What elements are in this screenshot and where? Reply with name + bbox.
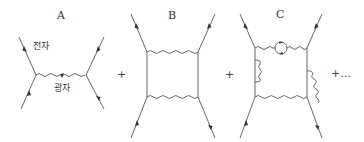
diagram-a-title: A	[57, 10, 65, 21]
electron-line-bottom-right	[307, 97, 322, 138]
plus-sign: +	[225, 69, 234, 80]
diagram-c-title: C	[276, 9, 284, 20]
fermion-loop	[275, 42, 287, 54]
photon-wavy-line-top	[147, 51, 198, 54]
electron-line-top-right	[86, 37, 104, 75]
electron-line-top-right	[307, 14, 322, 48]
plus-sign: +	[117, 69, 126, 80]
electron-label: 전자	[33, 42, 49, 51]
diagram-a	[19, 37, 104, 109]
electron-line-bottom-right	[198, 97, 215, 138]
arrow-icon	[244, 120, 248, 126]
electron-line-bottom-left	[240, 97, 255, 138]
diagram-b	[131, 14, 215, 138]
photon-wavy-line-bottom	[147, 96, 198, 99]
photon-self-energy-left	[255, 60, 262, 82]
vertex-tick-icon	[60, 74, 64, 78]
photon-wavy-line-bottom	[255, 96, 307, 99]
diagram-canvas	[0, 0, 364, 142]
electron-line-top-left	[240, 14, 255, 48]
diagram-b-title: B	[168, 10, 176, 21]
photon-wavy-line-top-right	[287, 47, 307, 50]
photon-label: 광자	[54, 84, 70, 93]
electron-line-bottom-left	[131, 97, 147, 138]
arrow-icon	[96, 46, 101, 52]
electron-line-bottom-right	[86, 75, 104, 109]
photon-vertex-correction-right	[307, 71, 319, 103]
electron-line-top-right	[198, 14, 215, 52]
photon-wavy-line-top-left	[255, 47, 275, 50]
arrow-icon	[135, 120, 139, 126]
electron-line-top-left	[131, 14, 147, 52]
feynman-diagram-series: A B C 전자 광자 + + +…	[0, 0, 364, 142]
plus-ellipsis: +…	[331, 68, 351, 79]
diagram-c	[240, 14, 322, 138]
